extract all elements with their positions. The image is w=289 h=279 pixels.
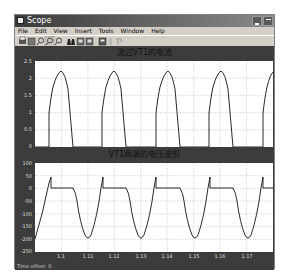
menu-edit[interactable]: Edit [35, 27, 47, 34]
plot-1-ytick: 0 [16, 144, 32, 149]
lock-icon[interactable] [109, 38, 112, 45]
x-tick: 1.1 [54, 254, 68, 259]
plot-2-axes[interactable] [35, 163, 273, 252]
menu-tools[interactable]: Tools [99, 27, 114, 34]
floating-scope-icon[interactable] [99, 38, 106, 45]
parameters-icon[interactable] [28, 38, 35, 45]
menu-bar: File Edit View Insert Tools Window Help [15, 27, 274, 35]
x-tick: 1.15 [187, 254, 201, 259]
title-bar: Scope [15, 15, 274, 27]
menu-window[interactable]: Window [121, 27, 145, 34]
x-tick: 1.12 [107, 254, 121, 259]
maximize-button[interactable] [263, 16, 273, 26]
plot-2-ytick: 0 [16, 186, 32, 191]
toolbar [15, 35, 274, 46]
time-offset-status: Time offset: 0 [15, 263, 274, 270]
zoom-y-icon[interactable] [55, 38, 62, 45]
plot-2-ytick: -200 [16, 237, 32, 242]
x-tick: 1.13 [134, 254, 148, 259]
menu-help[interactable]: Help [151, 27, 165, 34]
plot-1-title: 流过VT1的电流 [15, 48, 274, 58]
signal-selection-icon[interactable] [116, 39, 123, 45]
menu-view[interactable]: View [54, 27, 68, 34]
plot-2-ytick: 50 [16, 174, 32, 179]
plot-2-ytick: -100 [16, 212, 32, 217]
minimize-button[interactable] [252, 16, 262, 26]
save-axes-icon[interactable] [77, 38, 84, 45]
x-tick: 1.14 [160, 254, 174, 259]
window-title: Scope [27, 16, 51, 26]
scope-app-icon [17, 17, 24, 24]
plot-2-ytick: -50 [16, 199, 32, 204]
restore-axes-icon[interactable] [86, 38, 93, 45]
x-tick: 1.11 [81, 254, 95, 259]
plot-2-title: VT1两端的电压波形 [15, 150, 274, 160]
x-tick: 1.17 [240, 254, 254, 259]
scope-display: 流过VT1的电流 2.5 2 1.5 1 0.5 0 VT1两端的电压波形 [15, 46, 274, 263]
plot-1-axes[interactable] [35, 61, 273, 147]
plot-1-ytick: 0.5 [16, 127, 32, 132]
plot-2-ytick: -150 [16, 224, 32, 229]
plot-1-ytick: 1.5 [16, 93, 32, 98]
scope-window: Scope File Edit View Insert Tools Window… [14, 14, 275, 269]
plot-2-ytick: -250 [16, 249, 32, 254]
zoom-icon[interactable] [37, 38, 44, 45]
zoom-x-icon[interactable] [45, 37, 54, 47]
plot-2-ytick: 100 [16, 161, 32, 166]
print-icon[interactable] [19, 37, 26, 44]
menu-insert[interactable]: Insert [75, 27, 92, 34]
autoscale-icon[interactable] [67, 39, 75, 45]
menu-file[interactable]: File [18, 27, 28, 34]
plot-1-ytick: 2.5 [16, 59, 32, 64]
plot-1-ytick: 1 [16, 110, 32, 115]
x-tick: 1.16 [213, 254, 227, 259]
plot-1-ytick: 2 [16, 76, 32, 81]
